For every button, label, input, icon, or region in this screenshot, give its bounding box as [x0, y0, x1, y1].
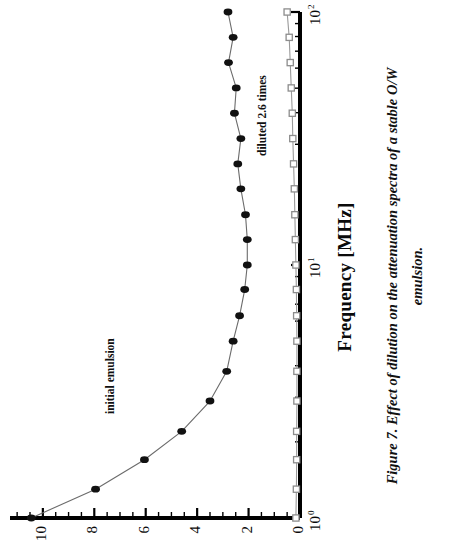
attenuation-spectra-chart — [0, 0, 330, 554]
x-tick-label-1: 101 — [306, 258, 324, 279]
data-point-0-12 — [236, 185, 245, 192]
y-tick-label-1: 2 — [239, 526, 256, 548]
data-point-0-10 — [243, 236, 252, 243]
y-tick-label-4: 8 — [84, 526, 101, 548]
data-point-1-4 — [294, 398, 300, 404]
data-point-0-18 — [229, 34, 238, 41]
data-point-0-6 — [229, 338, 238, 345]
x-tick-label-2: 102 — [306, 5, 324, 26]
chart-plot-area: Frequency [MHz] initial emulsion diluted… — [0, 0, 330, 554]
figure-caption-line-2: emulsion. — [409, 247, 425, 305]
data-point-0-4 — [206, 398, 215, 405]
figure-caption-line-1: Figure 7. Effect of dilution on the atte… — [384, 68, 400, 485]
data-point-1-16 — [288, 85, 294, 91]
data-point-0-11 — [241, 211, 250, 218]
figure-stage: Frequency [MHz] initial emulsion diluted… — [0, 0, 456, 554]
y-tick-label-5: 10 — [33, 526, 50, 548]
data-point-1-10 — [292, 237, 298, 243]
x-tick-label-0: 100 — [306, 511, 324, 532]
data-point-1-8 — [293, 286, 299, 292]
data-point-0-16 — [232, 85, 241, 92]
data-point-0-3 — [177, 428, 186, 435]
data-point-1-19 — [284, 9, 290, 15]
data-point-0-9 — [243, 262, 252, 269]
data-point-1-7 — [294, 313, 300, 319]
figure-caption: Figure 7. Effect of dilution on the atte… — [380, 32, 431, 520]
data-point-1-2 — [294, 457, 300, 463]
series-label-initial-emulsion: initial emulsion — [104, 338, 116, 414]
y-tick-label-0: 0 — [290, 526, 307, 548]
data-point-0-7 — [235, 312, 244, 319]
data-point-0-15 — [230, 110, 239, 117]
data-point-0-17 — [224, 59, 233, 66]
data-point-0-1 — [91, 486, 100, 493]
series-line-0 — [31, 12, 247, 518]
data-point-1-1 — [293, 486, 299, 492]
data-point-1-14 — [290, 135, 296, 141]
data-point-1-11 — [292, 212, 298, 218]
data-point-0-13 — [233, 160, 242, 167]
data-point-0-2 — [140, 456, 149, 463]
x-axis-title: Frequency [MHz] — [334, 0, 356, 554]
data-point-1-3 — [294, 428, 300, 434]
data-point-1-13 — [290, 161, 296, 167]
y-tick-label-3: 6 — [136, 526, 153, 548]
data-point-1-17 — [287, 59, 293, 65]
data-point-1-9 — [293, 262, 299, 268]
data-point-0-14 — [236, 135, 245, 142]
data-point-1-12 — [291, 186, 297, 192]
data-point-0-19 — [224, 9, 233, 16]
data-point-0-5 — [222, 368, 231, 375]
y-tick-label-2: 4 — [187, 526, 204, 548]
data-point-1-6 — [294, 338, 300, 344]
data-point-1-0 — [293, 515, 299, 521]
series-label-diluted: diluted 2.6 times — [256, 75, 268, 156]
data-point-1-15 — [289, 110, 295, 116]
data-point-0-8 — [240, 286, 249, 293]
data-point-1-5 — [294, 368, 300, 374]
data-point-0-0 — [27, 515, 36, 522]
data-point-1-18 — [286, 34, 292, 40]
